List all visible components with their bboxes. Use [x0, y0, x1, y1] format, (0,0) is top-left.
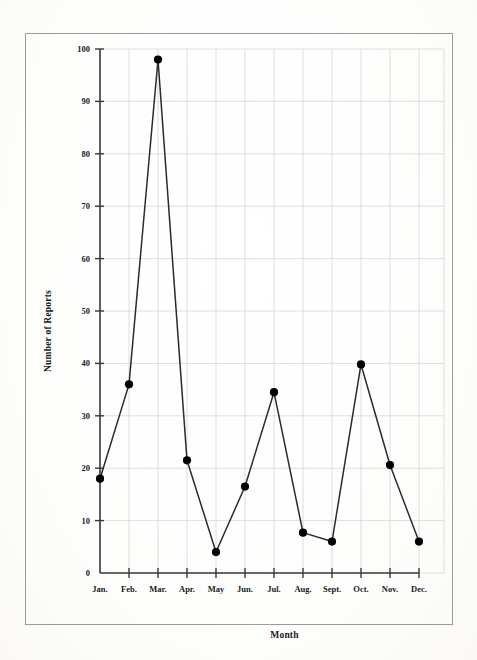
data-point: [96, 475, 104, 483]
y-tick-label: 30: [62, 411, 90, 421]
x-tick-label: Dec.: [399, 584, 439, 594]
y-tick-label: 90: [62, 96, 90, 106]
y-axis-title: Number of Reports: [43, 271, 53, 391]
data-series-line: [100, 59, 419, 552]
data-point: [183, 456, 191, 464]
y-tick-label: 60: [62, 254, 90, 264]
data-point: [299, 529, 307, 537]
y-tick-label: 50: [62, 306, 90, 316]
data-point: [415, 537, 423, 545]
data-point-markers: [96, 55, 423, 556]
line-chart: [26, 34, 454, 626]
y-tick-label: 10: [62, 516, 90, 526]
x-axis-title: Month: [125, 630, 444, 640]
figure-canvas: 0102030405060708090100 Jan.Feb.Mar.Apr.M…: [0, 0, 477, 660]
y-tick-label: 0: [62, 568, 90, 578]
data-point: [154, 55, 162, 63]
y-tick-label: 20: [62, 463, 90, 473]
y-tick-label: 80: [62, 149, 90, 159]
y-tick-label: 40: [62, 358, 90, 368]
data-point: [125, 380, 133, 388]
data-point: [357, 360, 365, 368]
data-point: [386, 461, 394, 469]
data-point: [270, 388, 278, 396]
y-tick-label: 100: [62, 44, 90, 54]
data-point: [241, 482, 249, 490]
y-tick-label: 70: [62, 201, 90, 211]
data-point: [328, 537, 336, 545]
figure-frame: 0102030405060708090100 Jan.Feb.Mar.Apr.M…: [25, 33, 453, 625]
data-point: [212, 548, 220, 556]
